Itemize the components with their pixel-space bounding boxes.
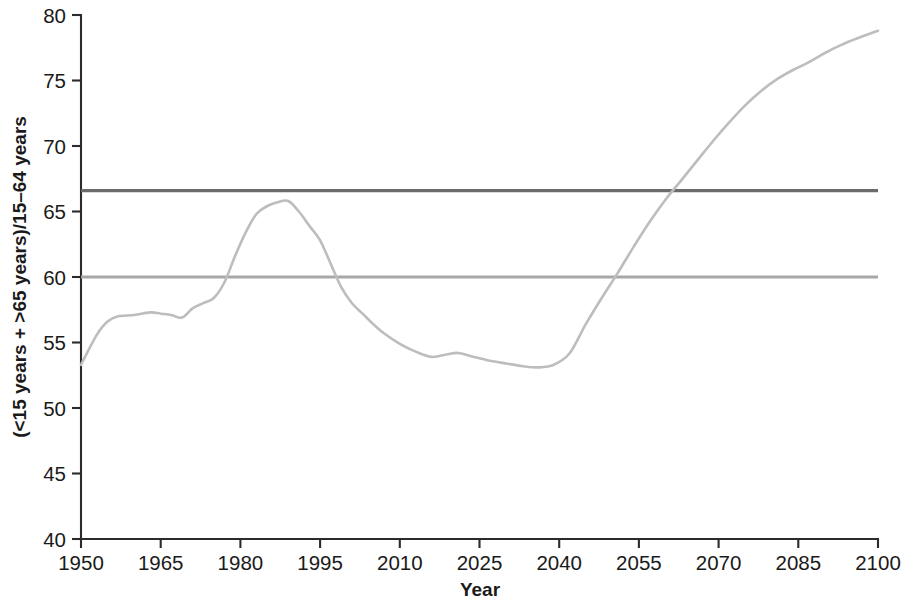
- chart-figure: (<15 years + >65 years)/15–64 years Year…: [0, 0, 910, 601]
- y-tick-label: 70: [43, 135, 66, 158]
- x-tick-label: 2025: [457, 551, 503, 574]
- y-tick-label: 50: [43, 397, 66, 420]
- x-tick-label: 1965: [138, 551, 184, 574]
- y-tick-label: 60: [43, 266, 66, 289]
- x-tick-label: 2055: [616, 551, 662, 574]
- x-tick-label: 2040: [536, 551, 582, 574]
- x-tick-label: 1980: [218, 551, 264, 574]
- y-tick-label: 80: [43, 4, 66, 27]
- y-axis-ticks: 404550556065707580: [43, 4, 81, 551]
- reference-lines: [81, 191, 878, 277]
- series-line-0: [81, 31, 878, 368]
- x-tick-label: 2100: [855, 551, 901, 574]
- y-axis-title: (<15 years + >65 years)/15–64 years: [9, 116, 30, 438]
- y-tick-label: 40: [43, 528, 66, 551]
- x-axis-ticks: 1950196519801995201020252040205520702085…: [58, 539, 901, 574]
- x-tick-label: 1995: [297, 551, 343, 574]
- y-tick-label: 45: [43, 462, 66, 485]
- y-tick-label: 75: [43, 69, 66, 92]
- dependency-ratio-line-chart: (<15 years + >65 years)/15–64 years Year…: [0, 0, 910, 601]
- data-series: [81, 31, 878, 368]
- x-tick-label: 1950: [58, 551, 104, 574]
- x-axis-title: Year: [460, 579, 501, 600]
- x-tick-label: 2070: [696, 551, 742, 574]
- y-axis-title-group: (<15 years + >65 years)/15–64 years: [9, 116, 30, 438]
- x-tick-label: 2085: [775, 551, 821, 574]
- y-tick-label: 55: [43, 331, 66, 354]
- x-tick-label: 2010: [377, 551, 423, 574]
- y-tick-label: 65: [43, 200, 66, 223]
